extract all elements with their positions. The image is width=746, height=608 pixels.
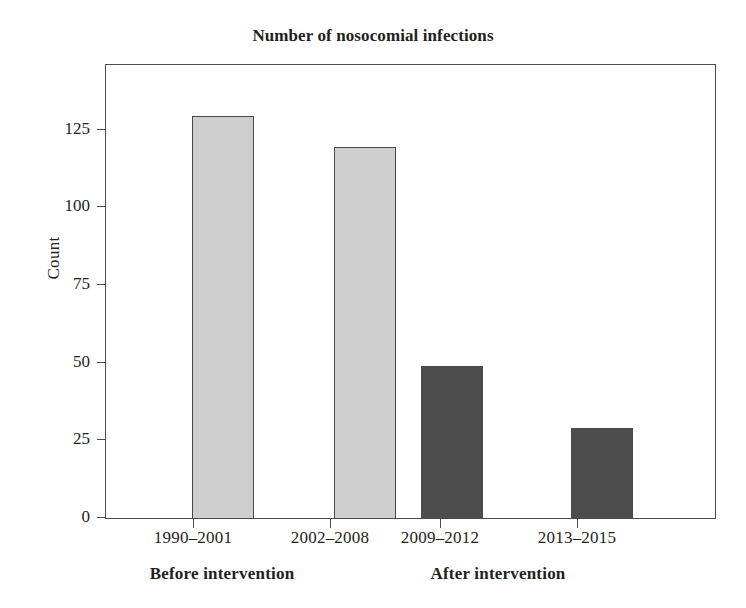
x-axis-tick-mark-1 [330, 519, 331, 528]
y-axis-tick-mark-3 [97, 284, 105, 285]
y-axis-tick-mark-0 [97, 517, 105, 518]
y-axis-tick-mark-2 [97, 362, 105, 363]
bar-2009-2012[interactable] [421, 366, 483, 519]
y-axis-label: Count [44, 198, 64, 318]
bar-1990-2001[interactable] [192, 116, 254, 519]
x-axis-tick-mark-3 [577, 519, 578, 528]
x-axis-tick-mark-2 [440, 519, 441, 528]
y-axis-tick-mark-5 [97, 129, 105, 130]
chart-figure: Number of nosocomial infections Count 0 … [0, 0, 746, 608]
y-axis-tick-label-3: 75 [0, 274, 90, 294]
x-axis-tick-label-0: 1990–2001 [113, 528, 273, 548]
x-axis-tick-mark-0 [193, 519, 194, 528]
bar-2002-2008[interactable] [334, 147, 396, 519]
bar-2013-2015[interactable] [571, 428, 633, 519]
y-axis-tick-label-2: 50 [0, 352, 90, 372]
y-axis-tick-label-1: 25 [0, 429, 90, 449]
y-axis-tick-label-0: 0 [0, 507, 90, 527]
x-axis-tick-label-2: 2009–2012 [360, 528, 520, 548]
y-axis-tick-mark-4 [97, 206, 105, 207]
group-label-after-intervention: After intervention [368, 564, 628, 584]
chart-title: Number of nosocomial infections [0, 26, 746, 46]
y-axis-tick-label-5: 125 [0, 119, 90, 139]
y-axis-tick-mark-1 [97, 439, 105, 440]
x-axis-tick-label-3: 2013–2015 [497, 528, 657, 548]
y-axis-tick-label-4: 100 [0, 196, 90, 216]
group-label-before-intervention: Before intervention [92, 564, 352, 584]
